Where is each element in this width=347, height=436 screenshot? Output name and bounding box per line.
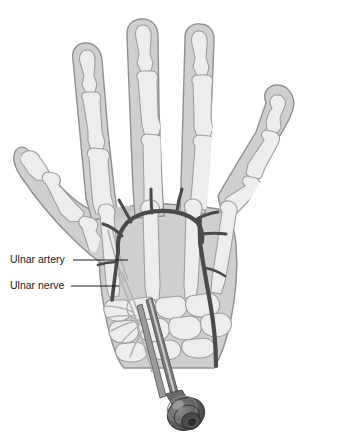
label-ulnar-artery-text: Ulnar artery [10, 253, 66, 265]
anatomical-figure: Ulnar artery Ulnar nerve [0, 0, 347, 436]
label-ulnar-nerve-text: Ulnar nerve [10, 279, 64, 291]
ring-middle-phalanx [192, 75, 213, 137]
carpal-distal-3 [156, 296, 187, 319]
arch-branch-6 [202, 233, 226, 234]
middle-distal-phalanx [135, 25, 153, 72]
needle-hub [162, 390, 209, 436]
hand-anatomy-illustration: Ulnar artery Ulnar nerve [0, 0, 347, 436]
ring-distal-phalanx [191, 31, 209, 76]
little-phalanges [222, 95, 285, 216]
carpal-row-3-c [182, 338, 215, 358]
carpal-proximal-3 [169, 316, 202, 340]
arch-branch-3 [151, 189, 152, 213]
